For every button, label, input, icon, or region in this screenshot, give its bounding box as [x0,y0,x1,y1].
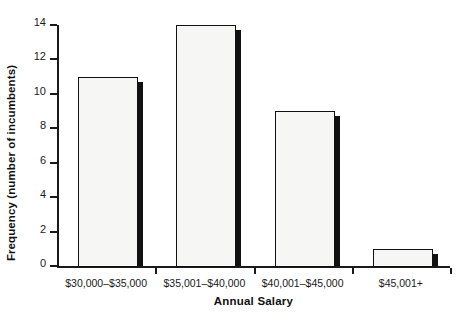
y-tick-label: 2 [16,223,46,235]
bar [176,25,236,267]
bar [78,77,138,267]
y-tick: 2 [50,231,57,233]
bar [275,111,335,267]
y-tick: 12 [50,58,57,60]
y-tick-label: 4 [16,188,46,200]
y-tick: 0 [50,265,57,267]
x-tick [254,268,256,274]
bar-chart: Frequency (number of incumbents) 0246810… [0,0,463,326]
x-tick [155,268,157,274]
y-tick-label: 12 [16,50,46,62]
y-tick-label: 8 [16,119,46,131]
y-tick: 14 [50,24,57,26]
y-tick: 10 [50,93,57,95]
x-tick [450,268,452,274]
y-tick: 6 [50,162,57,164]
plot-area: 02468101214 $30,000–$35,000$35,001–$40,0… [57,25,450,267]
bar [373,249,433,267]
x-category-label: $30,000–$35,000 [57,277,155,289]
y-axis-line [57,25,59,268]
x-tick [352,268,354,274]
x-category-label: $40,001–$45,000 [254,277,352,289]
bar-shadow [335,116,340,266]
x-category-label: $45,001+ [352,277,450,289]
x-category-label: $35,001–$40,000 [155,277,253,289]
y-tick-label: 14 [16,16,46,28]
bar-shadow [433,254,438,266]
y-tick-label: 0 [16,257,46,269]
x-axis-title: Annual Salary [57,295,450,307]
bar-shadow [138,82,143,266]
y-tick: 4 [50,196,57,198]
y-tick: 8 [50,127,57,129]
y-tick-label: 10 [16,85,46,97]
bar-shadow [236,30,241,266]
y-tick-label: 6 [16,154,46,166]
